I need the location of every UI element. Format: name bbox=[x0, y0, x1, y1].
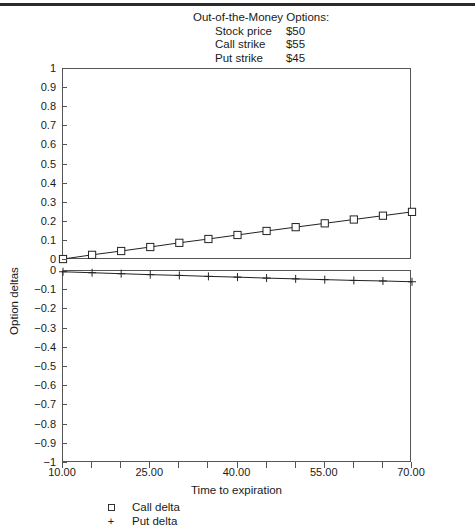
y-axis-label: Option deltas bbox=[8, 251, 20, 351]
data-point-marker bbox=[118, 247, 125, 254]
y-axis-tick-label: 0.9 bbox=[0, 82, 56, 93]
y-axis-tick-mark bbox=[62, 87, 67, 88]
x-axis-tick-label: 40.00 bbox=[207, 467, 267, 478]
y-axis-tick-label: 0.1 bbox=[0, 234, 56, 245]
y-axis-tick-label: 1 bbox=[0, 63, 56, 74]
y-axis-tick-label: 0.7 bbox=[0, 120, 56, 131]
y-axis-tick-mark bbox=[62, 366, 67, 367]
call-delta-plot bbox=[63, 69, 412, 260]
annotation-row: Put strike $45 bbox=[215, 52, 305, 66]
y-axis-tick-label: −0.9 bbox=[0, 437, 56, 448]
y-axis-tick-label: −0.6 bbox=[0, 380, 56, 391]
put-delta-panel bbox=[62, 270, 411, 462]
chart-legend: Call delta + Put delta bbox=[100, 500, 180, 528]
data-point-marker bbox=[379, 212, 386, 219]
y-axis-tick-mark bbox=[62, 443, 67, 444]
data-point-marker bbox=[292, 275, 300, 283]
y-axis-tick-label: −0.5 bbox=[0, 361, 56, 372]
y-axis-tick-mark bbox=[62, 125, 67, 126]
y-axis-tick-mark bbox=[62, 259, 67, 260]
data-point-marker bbox=[146, 271, 154, 279]
plus-marker-icon: + bbox=[100, 516, 122, 527]
data-point-marker bbox=[147, 243, 154, 250]
data-point-marker bbox=[59, 268, 67, 276]
y-axis-tick-mark bbox=[62, 183, 67, 184]
y-axis-tick-mark bbox=[62, 202, 67, 203]
x-axis-tick-label: 25.00 bbox=[119, 467, 179, 478]
legend-label: Call delta bbox=[132, 501, 180, 513]
x-axis-tick-label: 10.00 bbox=[32, 467, 92, 478]
data-point-marker bbox=[176, 239, 183, 246]
annotation-key: Put strike bbox=[215, 52, 286, 66]
data-point-marker bbox=[408, 208, 415, 215]
put-delta-plot bbox=[63, 271, 412, 463]
annotation-value: $50 bbox=[286, 25, 305, 39]
data-point-marker bbox=[205, 235, 212, 242]
annotation-row: Stock price $50 bbox=[215, 25, 305, 39]
annotation-value: $55 bbox=[286, 38, 305, 52]
y-axis-tick-label: 0.4 bbox=[0, 177, 56, 188]
y-axis-tick-mark bbox=[62, 164, 67, 165]
annotation-table: Stock price $50 Call strike $55 Put stri… bbox=[215, 25, 305, 66]
y-axis-tick-mark bbox=[62, 289, 67, 290]
call-delta-panel bbox=[62, 68, 411, 259]
y-axis-tick-label: 0.8 bbox=[0, 101, 56, 112]
data-point-marker bbox=[379, 277, 387, 285]
y-axis-tick-label: −0.8 bbox=[0, 418, 56, 429]
data-point-marker bbox=[350, 276, 358, 284]
data-point-marker bbox=[263, 274, 271, 282]
legend-item-call-delta: Call delta bbox=[100, 500, 180, 514]
data-point-marker bbox=[292, 224, 299, 231]
y-axis-tick-mark bbox=[62, 144, 67, 145]
chart-annotation-block: Out-of-the-Money Options: Stock price $5… bbox=[193, 11, 453, 65]
square-marker-icon bbox=[100, 502, 122, 513]
y-axis-tick-mark bbox=[62, 221, 67, 222]
data-point-marker bbox=[408, 278, 416, 286]
y-axis-tick-mark bbox=[62, 240, 67, 241]
scan-artifact-rule bbox=[0, 3, 475, 6]
annotation-value: $45 bbox=[286, 52, 305, 66]
y-axis-tick-mark bbox=[62, 424, 67, 425]
data-point-marker bbox=[350, 216, 357, 223]
y-axis-tick-mark bbox=[62, 106, 67, 107]
x-axis-label: Time to expiration bbox=[62, 484, 411, 496]
data-point-marker bbox=[321, 220, 328, 227]
data-point-marker bbox=[175, 271, 183, 279]
annotation-key: Stock price bbox=[215, 25, 286, 39]
data-point-marker bbox=[234, 273, 242, 281]
y-axis-tick-mark bbox=[62, 404, 67, 405]
y-axis-tick-mark bbox=[62, 68, 67, 69]
legend-item-put-delta: + Put delta bbox=[100, 514, 180, 528]
y-axis-tick-label: −0.7 bbox=[0, 399, 56, 410]
legend-label: Put delta bbox=[132, 515, 177, 527]
data-point-marker bbox=[117, 270, 125, 278]
y-axis-tick-mark bbox=[62, 308, 67, 309]
y-axis-tick-mark bbox=[62, 270, 67, 271]
data-point-marker bbox=[88, 251, 95, 258]
y-axis-tick-label: 0.3 bbox=[0, 196, 56, 207]
annotation-key: Call strike bbox=[215, 38, 286, 52]
data-point-marker bbox=[204, 272, 212, 280]
y-axis-tick-label: 0.2 bbox=[0, 215, 56, 226]
x-axis-tick-label: 70.00 bbox=[381, 467, 441, 478]
y-axis-tick-mark bbox=[62, 385, 67, 386]
data-point-marker bbox=[234, 231, 241, 238]
data-point-marker bbox=[321, 276, 329, 284]
x-axis-tick-label: 55.00 bbox=[294, 467, 354, 478]
y-axis-tick-mark bbox=[62, 328, 67, 329]
y-axis-tick-mark bbox=[62, 347, 67, 348]
data-point-marker bbox=[263, 227, 270, 234]
data-point-marker bbox=[88, 269, 96, 277]
annotation-heading: Out-of-the-Money Options: bbox=[193, 11, 453, 25]
y-axis-tick-label: 0.6 bbox=[0, 139, 56, 150]
annotation-row: Call strike $55 bbox=[215, 38, 305, 52]
y-axis-tick-label: 0.5 bbox=[0, 158, 56, 169]
